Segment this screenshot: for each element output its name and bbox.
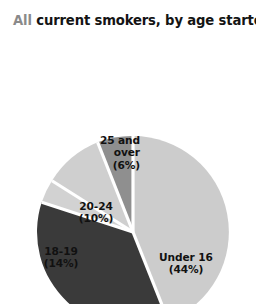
slice-label-20-24-name: 20-24 (68, 200, 124, 212)
title-rest: current smokers, by age started (36, 13, 256, 28)
slice-label-25-and-over-line1: 25 and (78, 134, 140, 146)
slice-label-18-19-value: (14%) (32, 257, 90, 269)
slice-label-25-and-over: 25 and over (6%) (78, 134, 140, 171)
page-title: All current smokers, by age started (13, 13, 253, 29)
slice-label-under-16: Under 16 (44%) (153, 251, 219, 276)
pie-chart-figure: All current smokers, by age started (0, 0, 256, 304)
pie-graphic: 25 and over (6%) 20-24 (10%) 18-19 (14%)… (0, 60, 256, 304)
slice-label-20-24-value: (10%) (68, 212, 124, 224)
slice-label-under-16-name: Under 16 (153, 251, 219, 263)
slice-label-18-19: 18-19 (14%) (32, 245, 90, 270)
slice-label-under-16-value: (44%) (153, 263, 219, 275)
slice-label-25-and-over-value: (6%) (78, 159, 140, 171)
title-emphasis: All (13, 13, 32, 28)
slice-label-18-19-name: 18-19 (32, 245, 90, 257)
slice-label-25-and-over-line2: over (78, 146, 140, 158)
slice-label-20-24: 20-24 (10%) (68, 200, 124, 225)
